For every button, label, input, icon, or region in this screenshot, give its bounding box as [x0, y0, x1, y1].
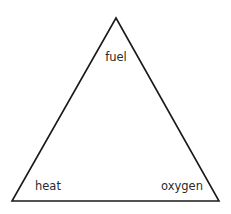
triangle-outline — [12, 18, 219, 201]
label-oxygen: oxygen — [161, 179, 203, 193]
label-heat: heat — [35, 179, 61, 193]
label-fuel: fuel — [105, 50, 127, 64]
fire-triangle-diagram: fuel heat oxygen — [0, 0, 231, 214]
